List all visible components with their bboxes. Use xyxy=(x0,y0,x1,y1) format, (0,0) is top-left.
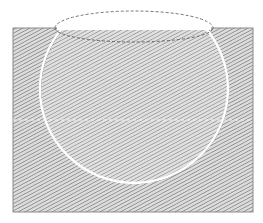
hatched-diagram xyxy=(0,0,263,223)
ellipse-upper-arc xyxy=(55,11,213,28)
